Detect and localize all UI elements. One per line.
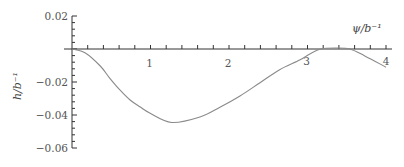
x-tick-label: 4 bbox=[383, 55, 390, 67]
x-axis-label: ψ/b⁻¹ bbox=[352, 22, 382, 35]
y-tick-label: 0.02 bbox=[45, 10, 68, 22]
x-tick-label: 2 bbox=[225, 57, 232, 69]
y-axis-label: h/b⁻¹ bbox=[11, 72, 24, 100]
y-axis-ticks bbox=[72, 16, 77, 148]
y-tick-labels: 0.02−0.02−0.04−0.06 bbox=[36, 10, 68, 154]
y-tick-label: −0.06 bbox=[36, 142, 68, 154]
y-tick-label: −0.04 bbox=[36, 109, 68, 121]
chart: 0.02−0.02−0.04−0.06 1234 ψ/b⁻¹ h/b⁻¹ bbox=[0, 0, 404, 167]
y-tick-label: −0.02 bbox=[36, 76, 68, 88]
x-tick-label: 1 bbox=[146, 57, 153, 69]
x-tick-labels: 1234 bbox=[146, 55, 390, 69]
